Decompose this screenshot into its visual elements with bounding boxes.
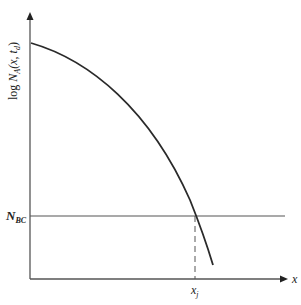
x-axis-arrowhead-icon [280, 276, 288, 283]
y-axis-label: log NA(x, td) [6, 42, 22, 100]
y-axis-arrowhead-icon [27, 12, 34, 20]
concentration-profile-curve [31, 43, 213, 265]
diagram-canvas: log NA(x, td) NBC x xj [0, 0, 301, 305]
diagram-svg: log NA(x, td) NBC x xj [0, 0, 301, 305]
x-axis-label: x [291, 272, 298, 286]
junction-depth-label: xj [190, 283, 199, 299]
nbc-label: NBC [5, 208, 27, 225]
